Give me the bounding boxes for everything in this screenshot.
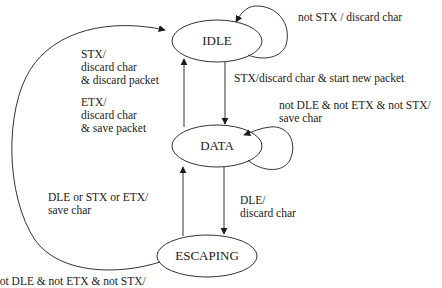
label-data-to-idle: STX/ discard char & discard packet ETX/ …	[81, 48, 159, 135]
label-idle-self: not STX / discard char	[298, 11, 402, 24]
label-data-self: not DLE & not ETX & not STX/ save char	[279, 99, 431, 125]
label-line: discard char	[240, 207, 296, 220]
label-line: not STX / discard char	[298, 11, 402, 24]
label-idle-to-data: STX/discard char & start new packet	[234, 72, 404, 85]
label-line: not DLE & not ETX & not STX/	[279, 99, 431, 112]
label-line: & discard packet	[81, 74, 159, 87]
state-label-idle: IDLE	[202, 34, 232, 48]
label-line: STX/	[81, 48, 159, 61]
label-line: DLE or STX or ETX/	[48, 191, 148, 204]
state-label-data: DATA	[200, 139, 234, 153]
label-line: not DLE & not ETX & not STX/	[0, 275, 146, 288]
label-line: discard char	[81, 61, 159, 74]
label-line: DLE/	[240, 194, 296, 207]
label-escaping-to-data: DLE or STX or ETX/ save char	[48, 191, 148, 217]
label-line: ETX/	[81, 96, 159, 109]
state-label-escaping: ESCAPING	[175, 249, 239, 263]
transition-data-self	[244, 127, 293, 170]
label-line: discard char	[81, 109, 159, 122]
label-line	[81, 87, 159, 96]
label-line: save char	[279, 112, 431, 125]
label-escaping-to-idle: not DLE & not ETX & not STX/	[0, 275, 146, 288]
label-line: & save packet	[81, 122, 159, 135]
label-data-to-escaping: DLE/ discard char	[240, 194, 296, 220]
label-line: STX/discard char & start new packet	[234, 72, 404, 85]
label-line: save char	[48, 204, 148, 217]
transition-idle-self	[236, 6, 287, 58]
